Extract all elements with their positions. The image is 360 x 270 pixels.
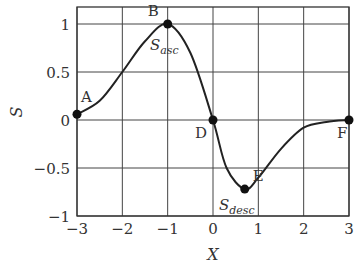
x-axis-label: X (205, 245, 219, 264)
x-tick-label: 1 (254, 220, 264, 238)
x-tick-label: 0 (208, 220, 218, 238)
point-label-b: B (148, 2, 159, 20)
annotation-s-asc: Sasc (150, 36, 179, 57)
x-tick-label: −2 (111, 220, 133, 238)
y-tick-label: 0 (60, 112, 70, 130)
grid-lines (77, 7, 349, 216)
y-tick-label: −1 (48, 208, 70, 226)
chart: −3−2−10123 −1−0.500.51 ABDEF Sasc Sdesc … (0, 0, 360, 270)
x-tick-label: 2 (299, 220, 309, 238)
point-label-d: D (195, 124, 207, 142)
y-axis-label: S (7, 106, 26, 117)
point-e (240, 185, 249, 194)
point-a (73, 110, 82, 119)
point-b (163, 20, 172, 29)
y-tick-label: −0.5 (34, 160, 70, 178)
point-label-e: E (253, 167, 264, 185)
y-tick-label: 1 (60, 16, 70, 34)
y-axis-ticks: −1−0.500.51 (34, 16, 70, 226)
point-d (209, 116, 218, 125)
y-tick-label: 0.5 (46, 64, 70, 82)
point-label-f: F (337, 124, 347, 142)
x-tick-label: 3 (344, 220, 354, 238)
point-label-a: A (80, 88, 92, 106)
x-axis-ticks: −3−2−10123 (66, 220, 354, 238)
x-tick-label: −1 (157, 220, 179, 238)
annotation-s-desc: Sdesc (219, 196, 255, 217)
